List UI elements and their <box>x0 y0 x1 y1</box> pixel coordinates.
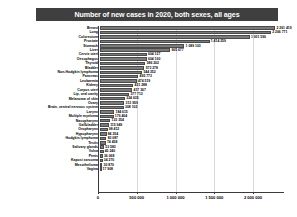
tick-mark <box>253 192 254 194</box>
bar <box>100 128 108 132</box>
bar <box>100 119 110 123</box>
bar <box>100 137 106 141</box>
tick-label: 0 <box>97 195 99 200</box>
bar <box>100 31 271 35</box>
bar <box>100 123 109 127</box>
tick-mark <box>214 192 215 194</box>
bar <box>100 97 125 101</box>
bar <box>100 154 103 158</box>
tick-label: 1 000 000 <box>166 195 184 200</box>
bar <box>100 132 107 136</box>
tick-label: 500 000 <box>129 195 144 200</box>
bar <box>100 110 114 114</box>
tick-label: 1 500 000 <box>205 195 223 200</box>
bar-chart: Number of new cases in 2020, both sexes,… <box>0 0 297 217</box>
bar <box>100 57 147 61</box>
bar-zone: 17 908 <box>100 167 297 171</box>
category-label: Vagina <box>0 167 100 171</box>
bar <box>100 53 147 57</box>
bar-rows: Breast2 261 419Lung2 206 771Colorectum1 … <box>0 26 297 171</box>
bar <box>100 66 144 70</box>
bar-row: Vagina17 908 <box>0 167 297 171</box>
bar <box>100 159 103 163</box>
bar <box>100 150 104 154</box>
bar <box>100 26 275 30</box>
x-axis-line <box>98 192 284 193</box>
bar <box>100 62 145 66</box>
plot-area: Breast2 261 419Lung2 206 771Colorectum1 … <box>0 26 297 192</box>
tick-mark <box>176 192 177 194</box>
bar <box>100 93 129 97</box>
bar <box>100 75 138 79</box>
tick-mark <box>98 192 99 194</box>
tick-mark <box>137 192 138 194</box>
bar <box>100 84 133 88</box>
chart-title: Number of new cases in 2020, both sexes,… <box>36 8 278 21</box>
bar-value-label: 17 908 <box>103 167 113 172</box>
tick-label: 2 000 000 <box>244 195 262 200</box>
bar <box>100 35 250 39</box>
x-axis: 0500 0001 000 0001 500 0002 000 000 <box>0 192 297 217</box>
bar <box>100 101 124 105</box>
bar <box>100 71 142 75</box>
bar <box>100 79 137 83</box>
bar <box>100 145 104 149</box>
bar <box>100 88 132 92</box>
